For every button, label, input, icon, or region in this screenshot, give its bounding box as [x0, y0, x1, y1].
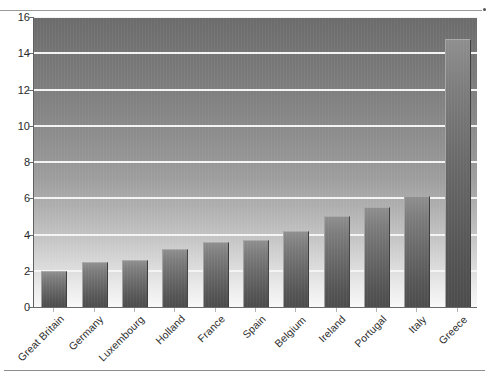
y-axis-tick-label: 12: [4, 85, 30, 95]
x-axis-labels: Great BritainGermanyLuxembourgHollandFra…: [0, 307, 489, 377]
bar-rect: [283, 231, 309, 307]
bar-portugal: [364, 207, 390, 307]
bar-great-britain: [41, 271, 67, 307]
x-axis-tick-label: Belgium: [272, 313, 308, 349]
y-axis-tick-label: 6: [4, 193, 30, 203]
bar-rect: [324, 216, 350, 307]
bar-italy: [404, 196, 430, 307]
bar-holland: [162, 249, 188, 307]
y-axis-tick-label: 2: [4, 266, 30, 276]
bars-layer: [34, 17, 477, 307]
bar-rect: [41, 271, 67, 307]
x-axis-tick-label: Greece: [436, 313, 469, 346]
y-axis-tick-mark: [28, 198, 33, 199]
bar-chart-figure: 0246810121416 Great BritainGermanyLuxemb…: [0, 0, 489, 383]
bar-rect: [82, 262, 108, 307]
x-axis-tick-label: Spain: [240, 313, 268, 341]
bar-germany: [82, 262, 108, 307]
y-axis-line: [33, 17, 34, 308]
bar-france: [203, 242, 229, 307]
bar-greece: [445, 39, 471, 307]
bar-rect: [404, 196, 430, 307]
x-axis-tick-label: Italy: [406, 313, 428, 335]
y-axis-tick-mark: [28, 126, 33, 127]
y-axis-labels: 0246810121416: [0, 0, 30, 320]
top-frame-rule: [0, 10, 482, 11]
y-axis-tick-label: 8: [4, 157, 30, 167]
bar-rect: [364, 207, 390, 307]
x-axis-tick-label: Germany: [66, 313, 106, 353]
bar-rect: [445, 39, 471, 307]
bar-rect: [122, 260, 148, 307]
bar-rect: [243, 240, 269, 307]
x-axis-tick-label: Portugal: [352, 313, 389, 350]
x-axis-tick-label: France: [195, 313, 227, 345]
bar-ireland: [324, 216, 350, 307]
bar-spain: [243, 240, 269, 307]
bar-luxembourg: [122, 260, 148, 307]
x-axis-tick-label: Holland: [153, 313, 187, 347]
bar-rect: [162, 249, 188, 307]
x-axis-tick-label: Ireland: [316, 313, 348, 345]
y-axis-tick-mark: [28, 271, 33, 272]
y-axis-tick-mark: [28, 235, 33, 236]
y-axis-tick-mark: [28, 162, 33, 163]
plot-area: [33, 17, 477, 307]
y-axis-tick-label: 10: [4, 121, 30, 131]
bar-belgium: [283, 231, 309, 307]
x-axis-tick-label: Great Britain: [15, 313, 66, 364]
bottom-frame-rule: [4, 370, 485, 371]
y-axis-tick-label: 4: [4, 230, 30, 240]
y-axis-tick-mark: [28, 53, 33, 54]
y-axis-tick-mark: [28, 90, 33, 91]
top-frame-dot: [483, 8, 486, 11]
y-axis-tick-mark: [28, 17, 33, 18]
bar-rect: [203, 242, 229, 307]
y-axis-tick-label: 14: [4, 48, 30, 58]
y-axis-tick-label: 16: [4, 12, 30, 22]
